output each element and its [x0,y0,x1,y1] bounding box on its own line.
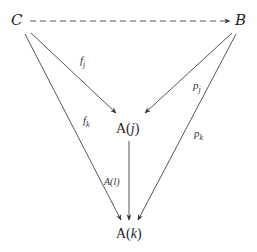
label-f-j: fj [80,54,86,69]
diagram-canvas: C B A(j) A(k) fj pj fk pk A(l) [0,0,257,252]
arrow-b-to-aj [145,33,232,113]
label-p-k: pk [193,127,204,142]
node-a-j-close: ) [135,121,140,137]
arrow-b-to-ak [138,34,236,220]
node-a-k-close: ) [137,226,142,242]
svg-text:A(j): A(j) [116,121,140,137]
node-b: B [234,11,246,29]
node-a-k: A(k) [116,226,142,242]
node-a-j-open: A( [116,121,131,137]
svg-text:A(k): A(k) [116,226,142,242]
label-f-k: fk [83,114,90,129]
label-p-j: pj [192,79,202,94]
node-a-k-open: A( [116,226,131,242]
arrow-c-to-ak [25,34,121,220]
node-c: C [11,11,23,29]
arrow-c-to-aj [31,33,116,113]
node-a-j: A(j) [116,121,140,137]
label-a-l: A(l) [103,176,120,188]
